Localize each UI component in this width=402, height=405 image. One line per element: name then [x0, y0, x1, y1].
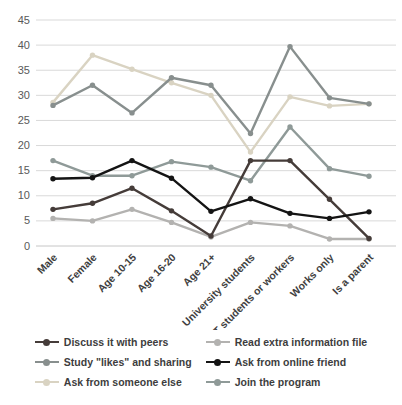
series-marker-4 [90, 52, 95, 57]
legend-line-marker-icon [206, 338, 230, 346]
x-axis-category-label: Age 16-20 [134, 251, 178, 295]
series-marker-1 [327, 236, 332, 241]
y-axis-tick-label: 35 [18, 64, 30, 76]
series-marker-1 [129, 207, 134, 212]
series-marker-2 [129, 110, 134, 115]
series-marker-5 [327, 166, 332, 171]
legend-line-marker-icon [35, 358, 59, 366]
chart-legend: Discuss it with peersRead extra informat… [0, 336, 402, 388]
series-marker-5 [50, 158, 55, 163]
y-axis-tick-label: 15 [18, 164, 30, 176]
series-marker-4 [327, 103, 332, 108]
series-marker-4 [208, 93, 213, 98]
legend-item: Ask from someone else [35, 376, 192, 388]
series-marker-1 [248, 220, 253, 225]
series-marker-2 [208, 83, 213, 88]
y-axis-tick-label: 40 [18, 39, 30, 51]
y-axis-tick-label: 25 [18, 114, 30, 126]
series-marker-2 [327, 95, 332, 100]
legend-line-marker-icon [35, 338, 59, 346]
series-marker-2 [50, 103, 55, 108]
series-marker-5 [287, 124, 292, 129]
series-marker-3 [287, 211, 292, 216]
y-axis-tick-label: 10 [18, 189, 30, 201]
y-axis-tick-label: 30 [18, 89, 30, 101]
series-marker-0 [327, 197, 332, 202]
series-marker-2 [169, 75, 174, 80]
series-marker-1 [287, 223, 292, 228]
x-axis-category-label: Female [65, 251, 99, 285]
x-axis-category-label: University students [180, 251, 258, 329]
series-marker-0 [208, 233, 213, 238]
x-axis-category-label: Is a parent [330, 251, 376, 297]
series-marker-5 [248, 178, 253, 183]
series-marker-3 [90, 175, 95, 180]
legend-label: Discuss it with peers [64, 336, 168, 348]
legend-item: Read extra information file [206, 336, 367, 348]
series-marker-0 [287, 158, 292, 163]
series-marker-3 [129, 158, 134, 163]
series-marker-2 [248, 131, 253, 136]
legend-item: Discuss it with peers [35, 336, 192, 348]
series-marker-3 [327, 216, 332, 221]
series-marker-2 [366, 101, 371, 106]
series-marker-0 [50, 207, 55, 212]
series-line-0 [53, 161, 369, 239]
series-marker-4 [129, 67, 134, 72]
series-line-4 [53, 55, 369, 152]
series-marker-4 [248, 149, 253, 154]
series-marker-4 [287, 94, 292, 99]
y-axis-tick-label: 0 [24, 240, 30, 252]
series-marker-0 [129, 186, 134, 191]
series-marker-0 [90, 201, 95, 206]
legend-label: Read extra information file [235, 336, 367, 348]
legend-line-marker-icon [206, 358, 230, 366]
series-marker-3 [169, 176, 174, 181]
series-marker-1 [169, 220, 174, 225]
series-marker-0 [169, 208, 174, 213]
series-marker-3 [50, 176, 55, 181]
series-marker-5 [366, 173, 371, 178]
line-chart-figure: 051015202530354045MaleFemaleAge 10-15Age… [0, 0, 402, 405]
legend-item: Study "likes" and sharing [35, 356, 192, 368]
line-chart: 051015202530354045MaleFemaleAge 10-15Age… [0, 0, 402, 330]
x-axis-category-label: Age 21+ [180, 251, 217, 288]
series-marker-1 [90, 218, 95, 223]
series-marker-5 [208, 164, 213, 169]
series-marker-3 [248, 196, 253, 201]
legend-label: Ask from online friend [235, 356, 346, 368]
series-marker-2 [287, 44, 292, 49]
legend-item: Join the program [206, 376, 367, 388]
series-marker-5 [129, 173, 134, 178]
series-marker-3 [366, 209, 371, 214]
series-marker-0 [366, 236, 371, 241]
y-axis-tick-label: 20 [18, 139, 30, 151]
y-axis-tick-label: 45 [18, 14, 30, 26]
legend-label: Join the program [235, 376, 321, 388]
legend-item: Ask from online friend [206, 356, 367, 368]
series-marker-1 [50, 216, 55, 221]
x-axis-category-label: Male [34, 251, 59, 276]
y-axis-tick-label: 5 [24, 214, 30, 226]
series-marker-0 [248, 158, 253, 163]
series-line-5 [53, 127, 369, 181]
legend-label: Study "likes" and sharing [64, 356, 192, 368]
legend-line-marker-icon [206, 378, 230, 386]
series-marker-5 [169, 159, 174, 164]
series-marker-2 [90, 83, 95, 88]
series-marker-3 [208, 209, 213, 214]
x-axis-category-label: Age 10-15 [95, 251, 139, 295]
legend-label: Ask from someone else [64, 376, 182, 388]
legend-line-marker-icon [35, 378, 59, 386]
